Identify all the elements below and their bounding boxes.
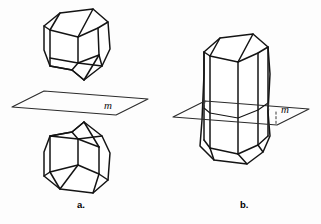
figure-svg: m a. xyxy=(0,0,321,224)
panel-a-caption: a. xyxy=(77,199,85,210)
plane-a-parallelogram xyxy=(12,91,148,115)
panel-a-top-solid xyxy=(44,9,110,80)
top-solid-outline xyxy=(44,9,110,80)
panel-b-caption: b. xyxy=(240,199,248,210)
panel-b-solid xyxy=(200,34,270,164)
plane-b-label: m xyxy=(281,103,289,115)
bottom-solid-outline xyxy=(44,122,110,193)
plane-a-label: m xyxy=(104,99,112,111)
symmetry-figure-canvas: m a. xyxy=(0,0,321,224)
panel-a-bottom-solid xyxy=(44,122,110,193)
panel-a-plane xyxy=(12,91,148,115)
